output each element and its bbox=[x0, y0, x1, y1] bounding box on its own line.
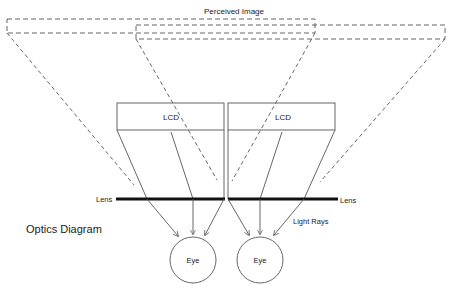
eye-right-label: Eye bbox=[254, 256, 267, 265]
arrow-to-left-eye bbox=[147, 199, 178, 236]
optics-diagram: Perceived Image LCD LCD Lens Lens bbox=[0, 0, 450, 295]
eye-left-label: Eye bbox=[187, 256, 200, 265]
light-path bbox=[117, 130, 147, 199]
lens-right-label: Lens bbox=[340, 196, 357, 205]
lcd-right-label: LCD bbox=[275, 113, 291, 122]
diagram-title: Optics Diagram bbox=[26, 223, 102, 235]
light-path bbox=[260, 132, 282, 199]
perceived-image-label: Perceived Image bbox=[204, 7, 265, 16]
perceived-image-left-rect bbox=[7, 19, 315, 33]
perceived-image-right-rect bbox=[136, 25, 445, 39]
arrow-to-left-eye bbox=[205, 199, 224, 235]
projection-line bbox=[320, 39, 445, 182]
light-rays-label: Light Rays bbox=[293, 217, 329, 226]
lcd-left-label: LCD bbox=[163, 113, 179, 122]
diagram-svg: Perceived Image LCD LCD Lens Lens bbox=[0, 0, 450, 295]
arrow-to-right-eye bbox=[228, 199, 249, 235]
projection-line bbox=[7, 33, 134, 185]
lens-left-label: Lens bbox=[96, 195, 113, 204]
projection-line bbox=[136, 39, 217, 180]
light-path bbox=[304, 130, 335, 199]
light-path bbox=[171, 132, 193, 199]
